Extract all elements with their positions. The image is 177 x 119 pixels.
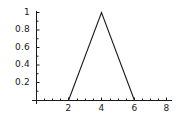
y-tick-label-0.2: 0.2 [0, 78, 30, 87]
y-tick-label-0.6: 0.6 [0, 43, 30, 52]
data-series-triangular-function [69, 13, 135, 101]
x-tick-label-6: 6 [124, 104, 145, 113]
y-tick-label-0.8: 0.8 [0, 25, 30, 34]
y-tick-label-0.4: 0.4 [0, 60, 30, 69]
y-tick-label-1: 1 [0, 8, 30, 17]
chart-plot-area: 1 0.8 0.6 0.4 0.2 2 4 6 8 [0, 0, 177, 119]
x-tick-label-4: 4 [91, 104, 112, 113]
x-tick-label-8: 8 [156, 104, 177, 113]
x-tick-label-2: 2 [58, 104, 79, 113]
